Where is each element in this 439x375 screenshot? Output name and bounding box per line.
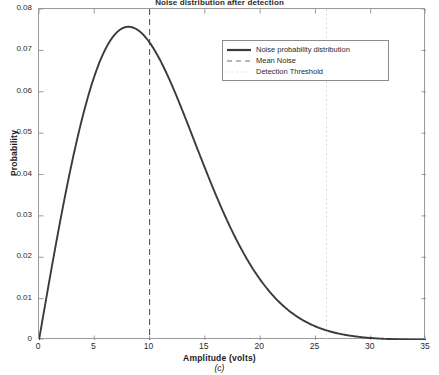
x-tick-label: 35 (410, 342, 439, 351)
y-tick-label: 0.06 (0, 87, 32, 95)
x-tick-label: 10 (134, 342, 164, 351)
figure-container: Noise distribution after detection Proba… (0, 0, 439, 375)
y-axis-title: Probability (9, 113, 19, 193)
x-tick-label: 0 (23, 342, 53, 351)
x-tick-label: 5 (78, 342, 108, 351)
y-tick-label: 0.03 (0, 211, 32, 219)
legend-swatch-icon (226, 45, 252, 55)
y-tick-label: 0.01 (0, 294, 32, 302)
legend-label: Mean Noise (256, 56, 296, 66)
x-axis-title: Amplitude (volts) (0, 353, 439, 363)
x-tick-label: 30 (355, 342, 385, 351)
x-tick-label: 25 (299, 342, 329, 351)
legend-label: Detection Threshold (256, 67, 323, 77)
y-tick-label: 0.04 (0, 170, 32, 178)
page-title: Noise distribution after detection (0, 0, 439, 7)
y-tick-label: 0.07 (0, 45, 32, 53)
y-tick-label: 0.08 (0, 4, 32, 12)
legend-item: Detection Threshold (226, 66, 384, 77)
legend-swatch-icon (226, 56, 252, 66)
legend-label: Noise probability distribution (256, 45, 350, 55)
legend-item: Noise probability distribution (226, 44, 384, 55)
x-tick-label: 20 (244, 342, 274, 351)
legend-swatch-icon (226, 67, 252, 77)
figure-caption: (c) (0, 363, 439, 373)
y-tick-label: 0.05 (0, 128, 32, 136)
legend-item: Mean Noise (226, 55, 384, 66)
y-tick-label: 0.02 (0, 252, 32, 260)
x-tick-label: 15 (189, 342, 219, 351)
chart-legend: Noise probability distributionMean Noise… (222, 40, 389, 81)
